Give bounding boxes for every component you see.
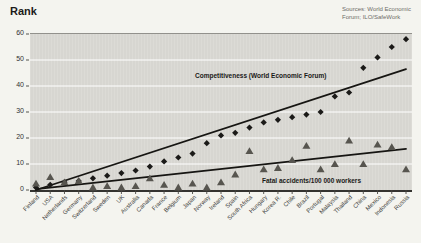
triangle-marker: [89, 184, 97, 191]
diamond-marker: [289, 114, 295, 120]
diamond-marker: [204, 140, 210, 146]
triangle-marker: [245, 147, 253, 154]
triangle-marker: [75, 177, 83, 184]
trend-line-competitiveness: [36, 69, 406, 190]
x-tick-label: Finland: [22, 194, 40, 212]
x-tick-label: UK: [115, 194, 125, 204]
diamond-marker: [175, 154, 181, 160]
triangle-marker: [274, 164, 282, 171]
triangle-marker: [32, 180, 40, 187]
chart-svg: [30, 34, 412, 190]
triangle-marker: [231, 171, 239, 178]
triangle-marker: [46, 173, 54, 180]
triangle-marker: [160, 181, 168, 188]
triangle-marker: [103, 182, 111, 189]
triangle-marker: [260, 165, 268, 172]
diamond-marker: [389, 44, 395, 50]
triangle-marker: [388, 143, 396, 150]
triangle-marker: [374, 141, 382, 148]
y-tick-label: 40: [0, 81, 26, 88]
diamond-marker: [403, 36, 409, 42]
diamond-marker: [90, 175, 96, 181]
diamond-marker: [360, 65, 366, 71]
triangle-marker: [288, 156, 296, 163]
y-tick-label: 30: [0, 107, 26, 114]
y-tick-label: 20: [0, 133, 26, 140]
series-label-competitiveness: Competitiveness (World Economic Forum): [195, 72, 326, 79]
diamond-marker: [189, 151, 195, 157]
y-axis: 0102030405060: [0, 33, 26, 189]
triangle-marker: [174, 184, 182, 191]
x-tick-label: Chile: [282, 194, 296, 208]
diamond-marker: [246, 125, 252, 131]
diamond-marker: [118, 170, 124, 176]
y-tick-label: 0: [0, 185, 26, 192]
triangle-marker: [217, 178, 225, 185]
series-label-fatal-accidents: Fatal accidents/100 000 workers: [262, 177, 361, 184]
diamond-marker: [275, 117, 281, 123]
sources-line-2: Forum; ILO/SafeWork: [342, 13, 416, 21]
x-axis: FinlandUSANetherlandsGermanySwitzerlandS…: [30, 192, 412, 242]
x-tick-label: Russia: [393, 194, 410, 211]
chart-title: Rank: [10, 5, 37, 17]
diamond-marker: [332, 93, 338, 99]
triangle-marker: [302, 142, 310, 149]
y-tick-label: 50: [0, 55, 26, 62]
sources-line-1: Sources: World Economic: [342, 5, 416, 13]
diamond-marker: [232, 130, 238, 136]
plot-area: Competitiveness (World Economic Forum) F…: [30, 33, 412, 192]
diamond-marker: [104, 173, 110, 179]
triangle-marker: [189, 180, 197, 187]
triangle-marker: [203, 184, 211, 191]
sources-note: Sources: World Economic Forum; ILO/SafeW…: [342, 5, 416, 21]
triangle-marker: [317, 165, 325, 172]
chart-figure: Rank Sources: World Economic Forum; ILO/…: [0, 0, 421, 243]
diamond-marker: [318, 109, 324, 115]
y-tick-label: 60: [0, 29, 26, 36]
triangle-marker: [117, 184, 125, 191]
diamond-marker: [261, 119, 267, 125]
x-tick-label: Ireland: [208, 194, 225, 211]
triangle-marker: [402, 165, 410, 172]
y-tick-label: 10: [0, 159, 26, 166]
diamond-marker: [133, 167, 139, 173]
triangle-marker: [132, 182, 140, 189]
diamond-marker: [346, 89, 352, 95]
